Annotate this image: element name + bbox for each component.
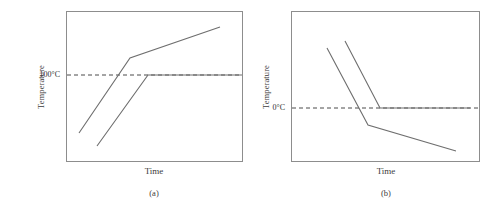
panel-a: Temperature 100°C Time (a)	[0, 0, 251, 213]
reference-tick-label-b: 0°C	[247, 103, 285, 112]
panel-b: Temperature 0°C Time (b)	[251, 0, 502, 213]
panel-caption-b: (b)	[346, 188, 426, 198]
y-axis-title-b: Temperature	[261, 44, 271, 130]
plot-frame-b	[291, 11, 480, 162]
temperature-time-figure: Temperature 100°C Time (a) Temperature 0…	[0, 0, 502, 213]
plot-frame-a	[66, 11, 243, 162]
reference-tick-label-a: 100°C	[12, 70, 60, 79]
x-axis-title-a: Time	[114, 166, 194, 176]
panel-caption-a: (a)	[114, 188, 194, 198]
x-axis-title-b: Time	[346, 166, 426, 176]
y-axis-title-a: Temperature	[36, 44, 46, 130]
